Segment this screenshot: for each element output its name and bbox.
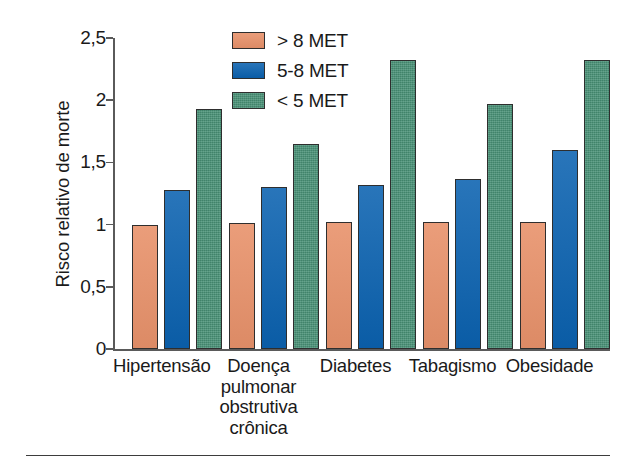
bar bbox=[164, 190, 190, 349]
y-axis-tick-label-wrap: 2,5 bbox=[52, 38, 106, 39]
legend: > 8 MET5-8 MET< 5 MET bbox=[232, 27, 348, 117]
bar-group bbox=[423, 38, 513, 349]
bar bbox=[358, 185, 384, 349]
bar bbox=[229, 223, 255, 349]
legend-swatch bbox=[232, 32, 265, 49]
bar bbox=[487, 104, 513, 349]
bar bbox=[552, 150, 578, 349]
bar bbox=[390, 60, 416, 349]
legend-swatch bbox=[232, 92, 265, 109]
y-axis-tick-label: 1,5 bbox=[66, 152, 106, 171]
category-label-line: Doença bbox=[210, 356, 307, 377]
y-axis-tick-label-wrap: 1,5 bbox=[52, 162, 106, 163]
y-axis-tick-mark bbox=[106, 286, 113, 288]
bar bbox=[455, 179, 481, 349]
bar bbox=[132, 225, 158, 349]
y-axis-tick-mark bbox=[106, 99, 113, 101]
legend-swatch bbox=[232, 62, 265, 79]
y-axis-tick-mark bbox=[106, 162, 113, 164]
bar-group bbox=[132, 38, 222, 349]
y-axis-tick-label: 0,5 bbox=[66, 277, 106, 296]
category-label-line: Tabagismo bbox=[404, 356, 501, 377]
legend-item: 5-8 MET bbox=[232, 57, 348, 84]
bar bbox=[326, 222, 352, 349]
y-axis-tick-label: 1 bbox=[66, 215, 106, 234]
x-axis-category-label: Diabetes bbox=[307, 356, 404, 377]
x-axis-category-label: Hipertensão bbox=[113, 356, 210, 377]
bar bbox=[196, 109, 222, 349]
x-axis-category-label: Tabagismo bbox=[404, 356, 501, 377]
legend-label: > 8 MET bbox=[277, 30, 348, 52]
bar bbox=[261, 187, 287, 349]
bar-chart-figure: Risco relativo de morte 00,511,522,5 Hip… bbox=[0, 0, 635, 466]
y-axis-tick-label-wrap: 1 bbox=[52, 225, 106, 226]
legend-label: 5-8 MET bbox=[277, 60, 348, 82]
bar bbox=[520, 222, 546, 349]
y-axis-tick-label: 2 bbox=[66, 90, 106, 109]
category-label-line: Hipertensão bbox=[113, 356, 210, 377]
bar bbox=[584, 60, 610, 349]
legend-item: < 5 MET bbox=[232, 87, 348, 114]
y-axis-tick-mark bbox=[106, 37, 113, 39]
y-axis-tick-label: 0 bbox=[66, 339, 106, 358]
y-axis-tick-label-wrap: 0,5 bbox=[52, 287, 106, 288]
x-axis-category-label: Obesidade bbox=[501, 356, 598, 377]
plot-area bbox=[113, 38, 610, 349]
y-axis-tick-label: 2,5 bbox=[66, 28, 106, 47]
bar bbox=[293, 144, 319, 349]
category-label-line: crônica bbox=[210, 418, 307, 439]
y-axis-tick-label-wrap: 0 bbox=[52, 349, 106, 350]
footer-divider bbox=[26, 455, 610, 456]
legend-label: < 5 MET bbox=[277, 90, 348, 112]
category-label-line: Obesidade bbox=[501, 356, 598, 377]
category-label-line: obstrutiva bbox=[210, 397, 307, 418]
legend-item: > 8 MET bbox=[232, 27, 348, 54]
category-label-line: pulmonar bbox=[210, 377, 307, 398]
bar-group bbox=[520, 38, 610, 349]
x-axis-line bbox=[113, 349, 610, 351]
y-axis-tick-mark bbox=[106, 348, 113, 350]
bar bbox=[423, 222, 449, 349]
y-axis-tick-label-wrap: 2 bbox=[52, 100, 106, 101]
x-axis-category-label: Doençapulmonarobstrutivacrônica bbox=[210, 356, 307, 438]
y-axis-tick-mark bbox=[106, 224, 113, 226]
category-label-line: Diabetes bbox=[307, 356, 404, 377]
